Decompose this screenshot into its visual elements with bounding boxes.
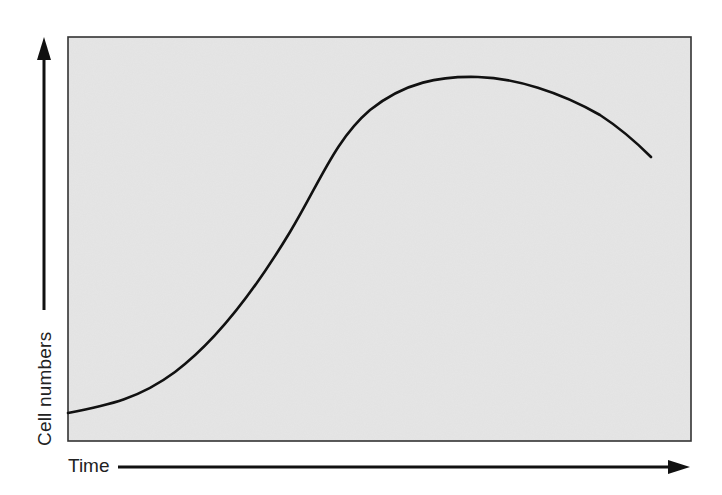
x-axis-label: Time [68,456,110,475]
y-axis-label: Cell numbers [35,332,54,446]
y-axis-arrowhead-icon [37,37,51,60]
chart [0,0,722,495]
x-axis-arrowhead-icon [668,460,690,474]
